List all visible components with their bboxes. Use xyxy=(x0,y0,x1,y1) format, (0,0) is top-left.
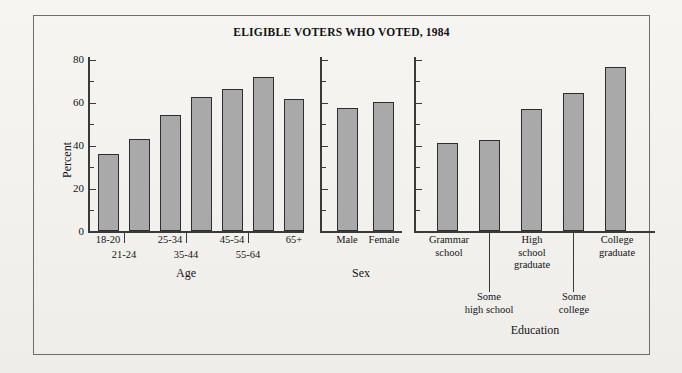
age-label-45-54: 45-54 xyxy=(202,234,262,247)
age-axis-title: Age xyxy=(146,266,226,281)
bar-age-45-54 xyxy=(222,89,243,231)
education-label-hsgrad-line1: High xyxy=(522,234,543,245)
age-x-axis-line xyxy=(88,231,304,233)
bar-education-some-college xyxy=(563,93,584,231)
education-label-college-graduate: College graduate xyxy=(585,234,649,259)
sex-x-axis-line xyxy=(320,231,402,233)
education-label-some-high-school: Some high school xyxy=(452,291,526,316)
education-xtick-1 xyxy=(489,232,490,292)
age-y-axis-line xyxy=(88,57,90,232)
sex-ytick-30 xyxy=(321,167,326,168)
bar-education-grammar-school xyxy=(437,143,458,231)
bar-sex-female xyxy=(373,102,394,231)
education-ytick-20 xyxy=(415,189,422,190)
education-label-somehs-line2: high school xyxy=(465,304,514,315)
bar-education-high-school-graduate xyxy=(521,109,542,231)
y-tick-label-60: 60 xyxy=(62,96,84,108)
sex-label-female: Female xyxy=(355,234,413,247)
bar-age-35-44 xyxy=(191,97,212,231)
education-ytick-60 xyxy=(415,103,422,104)
education-label-colgrad-line1: College xyxy=(601,234,634,245)
education-ytick-50 xyxy=(415,124,420,125)
bar-age-18-20 xyxy=(98,154,119,231)
education-label-somehs-line1: Some xyxy=(477,291,501,302)
sex-axis-title: Sex xyxy=(321,266,401,281)
y-tick-label-40: 40 xyxy=(62,139,84,151)
education-ytick-70 xyxy=(415,81,420,82)
sex-ytick-70 xyxy=(321,81,326,82)
age-ytick-80 xyxy=(89,60,96,61)
bar-sex-male xyxy=(337,108,358,231)
age-label-25-34: 25-34 xyxy=(140,234,200,247)
education-y-axis-line xyxy=(414,57,416,232)
sex-ytick-80 xyxy=(321,60,328,61)
education-ytick-40 xyxy=(415,146,422,147)
education-label-grammar-line2: school xyxy=(435,247,462,258)
education-x-axis-line xyxy=(414,231,655,233)
sex-ytick-40 xyxy=(321,146,328,147)
education-xtick-2 xyxy=(573,232,574,292)
sex-ytick-10 xyxy=(321,210,326,211)
education-label-colgrad-line2: graduate xyxy=(599,247,635,258)
education-label-hsgrad-line3: graduate xyxy=(514,259,550,270)
age-ytick-70 xyxy=(89,81,94,82)
sex-y-axis-line xyxy=(320,57,322,232)
y-tick-label-20: 20 xyxy=(62,182,84,194)
age-ytick-10 xyxy=(89,210,94,211)
education-label-some-college: Some college xyxy=(542,291,606,316)
bar-education-some-high-school xyxy=(479,140,500,231)
age-label-35-44: 35-44 xyxy=(156,249,216,262)
sex-ytick-60 xyxy=(321,103,328,104)
age-ytick-50 xyxy=(89,124,94,125)
age-ytick-40 xyxy=(89,146,96,147)
education-axis-title: Education xyxy=(490,323,580,338)
age-label-55-64: 55-64 xyxy=(218,249,278,262)
education-label-grammar-line1: Grammar xyxy=(429,234,469,245)
age-label-21-24: 21-24 xyxy=(94,249,154,262)
bar-age-65plus xyxy=(284,99,304,231)
education-label-high-school-graduate: High school graduate xyxy=(500,234,564,272)
education-label-somecol-line2: college xyxy=(559,304,589,315)
figure-root: ELIGIBLE VOTERS WHO VOTED, 1984 Percent … xyxy=(0,0,682,373)
education-ytick-80 xyxy=(415,60,422,61)
bar-education-college-graduate xyxy=(605,67,626,231)
education-label-hsgrad-line2: school xyxy=(518,247,545,258)
chart-title: ELIGIBLE VOTERS WHO VOTED, 1984 xyxy=(33,26,650,38)
age-label-65plus: 65+ xyxy=(264,234,324,247)
age-ytick-30 xyxy=(89,167,94,168)
age-ytick-20 xyxy=(89,189,96,190)
education-label-grammar-school: Grammar school xyxy=(417,234,481,259)
education-ytick-30 xyxy=(415,167,420,168)
education-ytick-10 xyxy=(415,210,420,211)
y-tick-label-80: 80 xyxy=(62,53,84,65)
sex-ytick-50 xyxy=(321,124,326,125)
bar-age-55-64 xyxy=(253,77,274,231)
age-ytick-60 xyxy=(89,103,96,104)
sex-ytick-20 xyxy=(321,189,328,190)
education-label-somecol-line1: Some xyxy=(562,291,586,302)
bar-age-25-34 xyxy=(160,115,181,231)
bar-age-21-24 xyxy=(129,139,150,231)
age-label-18-20: 18-20 xyxy=(78,234,138,247)
